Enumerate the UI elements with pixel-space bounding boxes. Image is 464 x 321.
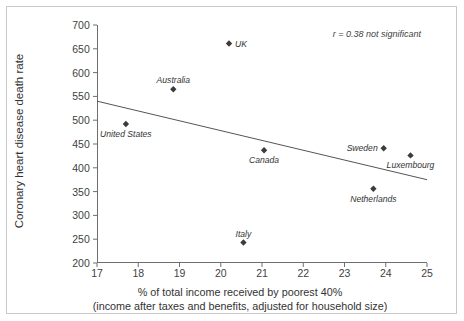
x-tick-label: 19	[165, 268, 195, 279]
x-tick-label: 25	[412, 268, 442, 279]
x-tick-label: 17	[82, 268, 112, 279]
data-point-label: Sweden	[347, 144, 378, 153]
x-tick-label: 21	[247, 268, 277, 279]
data-point-label: Canada	[249, 156, 279, 165]
x-axis-title-line-2: (income after taxes and benefits, adjust…	[40, 299, 440, 313]
x-tick-label: 20	[206, 268, 236, 279]
y-tick-label: 700	[56, 20, 90, 31]
x-axis-title: % of total income received by poorest 40…	[40, 285, 440, 314]
y-tick-label: 400	[56, 163, 90, 174]
y-axis-title: Coronary heart disease death rate	[13, 36, 25, 246]
y-tick-label: 650	[56, 44, 90, 55]
y-tick-label: 300	[56, 210, 90, 221]
y-tick-label: 250	[56, 234, 90, 245]
x-axis-tick-labels: 171819202122232425	[0, 268, 464, 284]
data-point-label: UK	[235, 40, 247, 49]
x-axis-title-line-1: % of total income received by poorest 40…	[40, 285, 440, 299]
x-tick-label: 23	[330, 268, 360, 279]
y-tick-label: 350	[56, 187, 90, 198]
x-tick-label: 22	[288, 268, 318, 279]
y-tick-label: 200	[56, 258, 90, 269]
x-tick-label: 18	[123, 268, 153, 279]
chart-figure: 200250300350400450500550600650700 171819…	[0, 0, 464, 321]
data-point-label: Luxembourg	[387, 161, 435, 170]
correlation-annotation: r = 0.38 not significant	[333, 29, 421, 39]
y-tick-label: 600	[56, 68, 90, 79]
y-tick-label: 550	[56, 91, 90, 102]
y-tick-label: 450	[56, 139, 90, 150]
x-tick-label: 24	[371, 268, 401, 279]
data-point-label: Italy	[236, 230, 252, 239]
y-tick-label: 500	[56, 115, 90, 126]
data-point-label: Netherlands	[350, 195, 396, 204]
data-point-label: Australia	[157, 76, 190, 85]
data-point-label: United States	[100, 130, 152, 139]
